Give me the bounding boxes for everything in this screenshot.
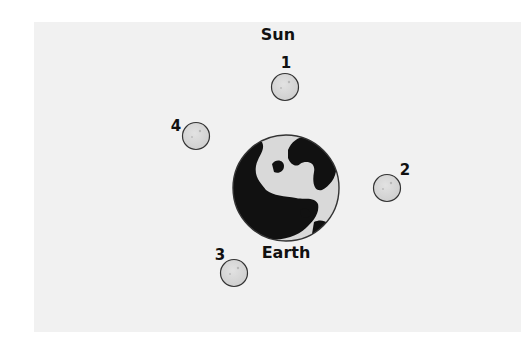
- earth-globe-icon: [232, 135, 339, 241]
- moon-1-icon: [272, 74, 299, 101]
- moon-3-label: 3: [215, 248, 225, 263]
- orbit-diagram: [0, 0, 527, 342]
- earth-label: Earth: [262, 245, 311, 261]
- moon-2-icon: [374, 175, 401, 202]
- moon-3-icon: [221, 260, 248, 287]
- moon-4-label: 4: [171, 119, 181, 134]
- sun-label: Sun: [261, 27, 295, 43]
- moon-1-label: 1: [281, 56, 291, 71]
- moon-4-icon: [183, 123, 210, 150]
- moon-2-label: 2: [400, 163, 410, 178]
